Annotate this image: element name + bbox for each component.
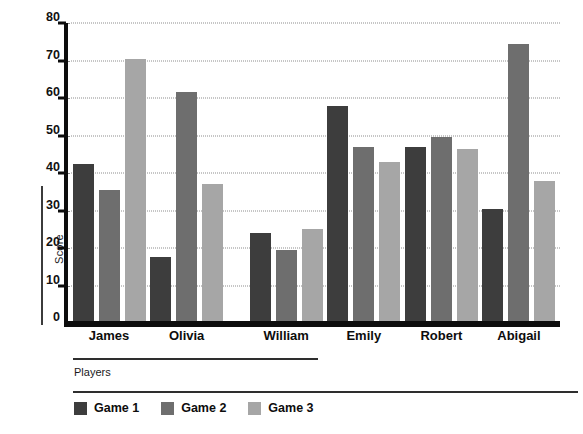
- y-tick-label: 80: [22, 11, 60, 24]
- legend-item[interactable]: Game 1: [74, 401, 139, 415]
- bar-group-container: [68, 23, 560, 323]
- y-tick-label: 20: [22, 236, 60, 249]
- y-tick-label: 0: [22, 311, 60, 324]
- legend-swatch-icon: [248, 402, 261, 415]
- bar: [250, 233, 271, 323]
- legend-label: Game 3: [268, 401, 313, 415]
- bar: [431, 137, 452, 323]
- bar: [482, 209, 503, 323]
- category-label: William: [264, 328, 309, 343]
- y-tick-mark: [58, 209, 66, 212]
- plot-area: [68, 23, 560, 323]
- category-label: Abigail: [497, 328, 540, 343]
- y-tick-label: 10: [22, 273, 60, 286]
- x-axis-rule-upper: [73, 358, 318, 360]
- bar: [73, 164, 94, 323]
- bar: [276, 250, 297, 323]
- bar: [176, 92, 197, 323]
- bar-chart-figure: Score 01020304050607080 JamesOliviaWilli…: [0, 0, 583, 434]
- y-tick-mark: [58, 134, 66, 137]
- bar: [534, 181, 555, 324]
- bar: [508, 44, 529, 323]
- bar: [327, 106, 348, 324]
- y-tick-mark: [58, 284, 66, 287]
- bar: [302, 229, 323, 323]
- category-label: Olivia: [169, 328, 204, 343]
- y-tick-mark: [58, 22, 66, 25]
- legend-label: Game 1: [94, 401, 139, 415]
- y-tick-mark: [58, 172, 66, 175]
- bar: [99, 190, 120, 323]
- bar: [379, 162, 400, 323]
- category-label: James: [89, 328, 129, 343]
- bar: [353, 147, 374, 323]
- x-axis-line: [64, 321, 560, 327]
- legend-swatch-icon: [161, 402, 174, 415]
- bar: [202, 184, 223, 323]
- legend-label: Game 2: [181, 401, 226, 415]
- legend-item[interactable]: Game 3: [248, 401, 313, 415]
- bar: [405, 147, 426, 323]
- y-axis-tick-labels: 01020304050607080: [22, 17, 60, 329]
- legend-item[interactable]: Game 2: [161, 401, 226, 415]
- legend-swatch-icon: [74, 402, 87, 415]
- bar: [457, 149, 478, 323]
- x-axis-rule-lower: [73, 391, 578, 393]
- y-tick-label: 40: [22, 161, 60, 174]
- y-tick-label: 60: [22, 86, 60, 99]
- y-tick-mark: [58, 247, 66, 250]
- legend: Game 1Game 2Game 3: [74, 399, 336, 417]
- bar: [150, 257, 171, 323]
- y-tick-label: 30: [22, 198, 60, 211]
- bar: [125, 59, 146, 323]
- x-axis-category-labels: JamesOliviaWilliamEmilyRobertAbigail: [68, 328, 560, 348]
- y-tick-mark: [58, 59, 66, 62]
- x-axis-title: Players: [74, 366, 111, 378]
- y-tick-mark: [58, 97, 66, 100]
- y-tick-label: 70: [22, 48, 60, 61]
- category-label: Emily: [346, 328, 381, 343]
- y-tick-label: 50: [22, 123, 60, 136]
- category-label: Robert: [420, 328, 462, 343]
